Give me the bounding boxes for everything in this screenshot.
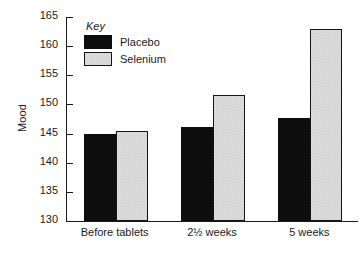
x-axis-label: 5 weeks [261, 226, 358, 238]
y-tick-label: 155 [40, 67, 58, 79]
legend-swatch-placebo [84, 35, 112, 49]
bar-group [261, 17, 358, 221]
legend-label-selenium: Selenium [120, 53, 166, 65]
y-tick-label: 135 [40, 184, 58, 196]
legend: Key Placebo Selenium [84, 20, 166, 69]
y-tick-label: 140 [40, 155, 58, 167]
legend-title: Key [86, 20, 166, 32]
bar-selenium[interactable] [213, 95, 245, 221]
legend-item-selenium: Selenium [84, 52, 166, 66]
y-tick-label: 130 [40, 213, 58, 225]
bar-placebo[interactable] [278, 118, 310, 221]
legend-label-placebo: Placebo [120, 36, 160, 48]
x-axis-label: Before tablets [66, 226, 163, 238]
y-tick-line [67, 221, 73, 222]
bar-selenium[interactable] [116, 131, 148, 221]
y-tick-label: 150 [40, 96, 58, 108]
bar-group [164, 17, 261, 221]
bar-chart: Mood 130135140145150155160165 Before tab… [0, 0, 362, 260]
bar-placebo[interactable] [84, 134, 116, 221]
x-axis-labels: Before tablets2½ weeks5 weeks [66, 226, 358, 238]
y-tick-label: 145 [40, 126, 58, 138]
y-tick-label: 165 [40, 9, 58, 21]
y-axis-title: Mood [16, 88, 28, 148]
legend-item-placebo: Placebo [84, 35, 166, 49]
x-axis-label: 2½ weeks [163, 226, 260, 238]
bar-selenium[interactable] [310, 29, 342, 221]
y-tick-label: 160 [40, 38, 58, 50]
bar-placebo[interactable] [181, 127, 213, 221]
legend-swatch-selenium [84, 52, 112, 66]
